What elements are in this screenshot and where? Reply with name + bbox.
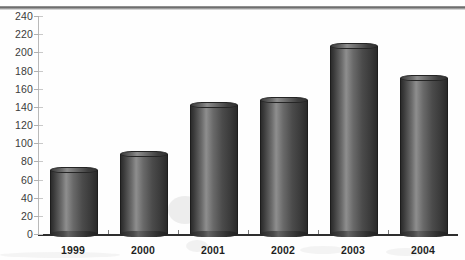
bar-base-ellipse xyxy=(330,231,378,237)
y-axis-tick-label: 200 xyxy=(15,46,33,58)
bar-cap-ellipse xyxy=(400,75,448,81)
y-axis-tick-label: 120 xyxy=(15,119,33,131)
x-axis-tick xyxy=(178,230,179,234)
bar-chart: 020406080100120140160180200220240 199920… xyxy=(0,0,465,260)
bar-base-ellipse xyxy=(260,231,308,237)
scan-artifact xyxy=(300,246,346,254)
y-axis-tick-label: 20 xyxy=(21,210,33,222)
y-axis-tick-label: 180 xyxy=(15,65,33,77)
y-axis-tick-label: 140 xyxy=(15,101,33,113)
bar-base-ellipse xyxy=(120,231,168,237)
bar-cap-ellipse xyxy=(330,43,378,49)
bar xyxy=(330,46,378,234)
bar xyxy=(50,170,98,234)
x-axis-tick-label: 2003 xyxy=(341,244,365,256)
bar xyxy=(190,105,238,234)
y-axis-tick-label: 100 xyxy=(15,137,33,149)
x-axis-tick xyxy=(108,230,109,234)
page-top-rule-secondary xyxy=(0,9,465,10)
bar-base-ellipse xyxy=(190,231,238,237)
x-axis-tick xyxy=(388,230,389,234)
y-axis-tick-label: 240 xyxy=(15,10,33,22)
x-axis-tick-label: 2002 xyxy=(271,244,295,256)
y-axis-tick-label: 0 xyxy=(27,228,33,240)
x-axis-tick-label: 2000 xyxy=(131,244,155,256)
bar xyxy=(120,154,168,234)
bar-cap-ellipse xyxy=(260,97,308,103)
y-axis-tick-label: 60 xyxy=(21,174,33,186)
bar-base-ellipse xyxy=(50,231,98,237)
bar-cap-ellipse xyxy=(50,167,98,173)
bar-cap-ellipse xyxy=(190,102,238,108)
x-axis-tick-label: 1999 xyxy=(61,244,85,256)
x-axis-tick-label: 2001 xyxy=(201,244,225,256)
y-axis-tick-label: 80 xyxy=(21,155,33,167)
y-axis-tick-label: 40 xyxy=(21,192,33,204)
bar-cap-ellipse xyxy=(120,151,168,157)
plot-area: 020406080100120140160180200220240 199920… xyxy=(38,16,458,236)
bar-series xyxy=(38,16,458,236)
x-axis-tick xyxy=(318,230,319,234)
y-axis-tick-label: 160 xyxy=(15,83,33,95)
y-axis-tick-label: 220 xyxy=(15,28,33,40)
bar xyxy=(260,100,308,234)
bar-base-ellipse xyxy=(400,231,448,237)
x-axis-tick-label: 2004 xyxy=(411,244,435,256)
x-axis-tick xyxy=(248,230,249,234)
bar xyxy=(400,78,448,234)
